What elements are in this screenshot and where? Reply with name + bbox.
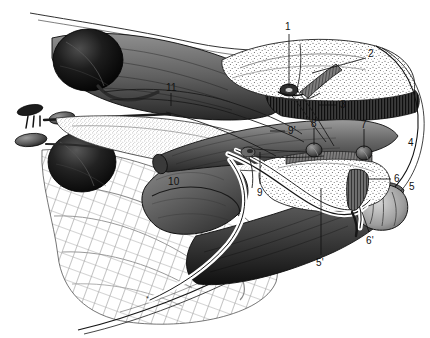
- gland-7: [356, 146, 372, 160]
- illustration-canvas: [0, 0, 430, 338]
- label-9: 9: [257, 188, 263, 198]
- label-2: 2: [368, 49, 374, 59]
- vascular-knot-9: [241, 147, 255, 157]
- fat-pad-superior: [222, 39, 415, 101]
- label-1: 1: [285, 22, 291, 32]
- label-8: 8: [311, 119, 317, 129]
- label-3: 3: [340, 100, 346, 110]
- label-9-prime: 9': [288, 126, 296, 136]
- label-7: 7: [361, 120, 367, 130]
- label-4: 4: [408, 138, 414, 148]
- label-5-prime: 5': [316, 258, 324, 268]
- label-11: 11: [166, 83, 177, 93]
- label-6-prime: 6': [366, 236, 374, 246]
- gland-8: [306, 143, 322, 157]
- label-5: 5: [409, 182, 415, 192]
- label-10: 10: [168, 177, 180, 187]
- label-6: 6: [394, 174, 400, 184]
- asterisk-mark: *: [146, 295, 149, 302]
- anatomical-figure: 1 2 3 4 5 5' 6 6' 7 8 9 9' 10 11 *: [0, 0, 430, 338]
